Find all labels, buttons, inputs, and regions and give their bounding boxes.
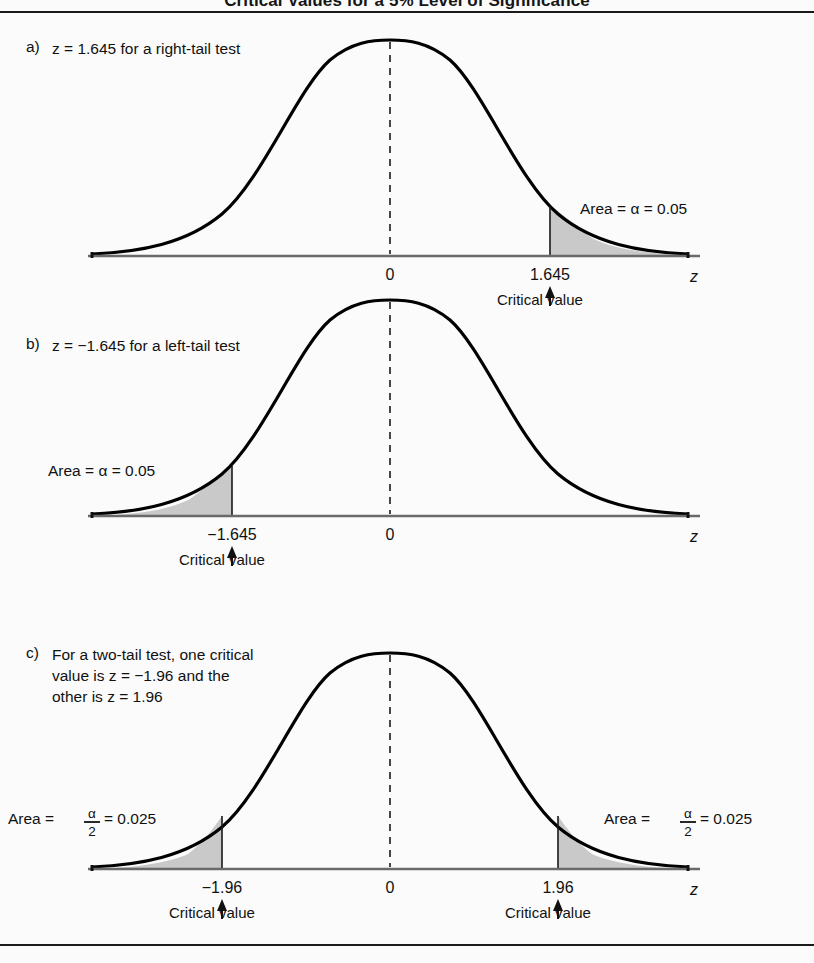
critical-value-caption-a: Critical value	[497, 291, 583, 308]
top-divider	[0, 11, 814, 13]
tick-label-critical-left: −1.96	[202, 879, 243, 896]
axis-label-z: z	[689, 268, 698, 285]
area-annotation-a: Area = α = 0.05	[580, 200, 687, 217]
tick-label-zero: 0	[386, 526, 395, 543]
panel-a-right-tail: a) z = 1.645 for a right-tail test 0 1.6…	[0, 18, 814, 308]
area-prefix-left: Area =	[8, 810, 54, 827]
area-denominator-left: 2	[88, 824, 96, 839]
tick-label-zero: 0	[386, 266, 395, 283]
panel-c-plot: −1.96 0 1.96 z Area = α 2 = 0.025 Area =…	[0, 628, 814, 938]
critical-value-caption-c-right: Critical value	[505, 904, 591, 921]
panel-a-plot: 0 1.645 z Area = α = 0.05	[0, 18, 814, 308]
area-annotation-right: Area = α 2 = 0.025	[604, 806, 752, 839]
panel-c-two-tail: c) For a two-tail test, one critical val…	[0, 628, 814, 938]
area-annotation-b: Area = α = 0.05	[48, 462, 155, 479]
area-suffix-left: = 0.025	[104, 810, 156, 827]
figure-title: Critical Values for a 5% Level of Signif…	[0, 0, 814, 11]
panel-b-left-tail: b) z = −1.645 for a left-tail test −1.64…	[0, 318, 814, 608]
tick-label-critical: −1.645	[207, 526, 256, 543]
critical-value-caption-b: Critical value	[179, 551, 265, 568]
critical-value-caption-c-left: Critical value	[169, 904, 255, 921]
area-annotation-left: Area = α 2 = 0.025	[8, 806, 156, 839]
tick-label-zero: 0	[386, 879, 395, 896]
tick-label-critical-right: 1.96	[542, 879, 573, 896]
area-numerator-right: α	[684, 806, 692, 821]
panel-b-plot: −1.645 0 z Area = α = 0.05	[0, 318, 814, 608]
area-suffix-right: = 0.025	[700, 810, 752, 827]
area-prefix-right: Area =	[604, 810, 650, 827]
tick-label-critical: 1.645	[530, 266, 570, 283]
area-numerator-left: α	[88, 806, 96, 821]
area-denominator-right: 2	[684, 824, 692, 839]
axis-label-z: z	[689, 528, 698, 545]
axis-label-z: z	[689, 881, 698, 898]
bottom-divider	[0, 944, 814, 946]
